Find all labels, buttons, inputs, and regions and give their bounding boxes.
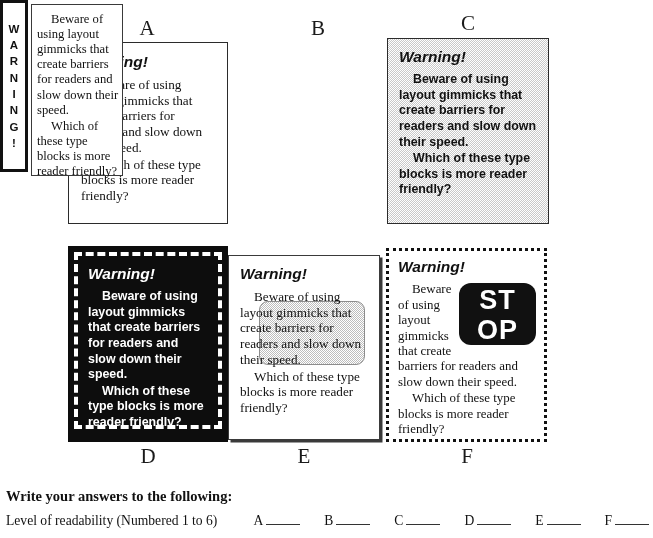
stop-line-2: OP xyxy=(459,315,536,345)
panel-b-vertical-letter: W xyxy=(9,21,20,37)
stop-sign-icon: ST OP xyxy=(459,283,536,345)
readability-question-label: Level of readability (Numbered 1 to 6) xyxy=(6,513,217,529)
panel-b-vertical-letter: A xyxy=(10,37,18,53)
answer-blank-d[interactable] xyxy=(477,513,511,525)
panel-d-paragraph-1: Beware of using layout gimmicks that cre… xyxy=(88,289,209,383)
panel-b-vertical-letter: ! xyxy=(12,135,16,151)
panel-b-vertical-warning: W A R N I N G ! xyxy=(0,0,28,172)
answer-slot-b[interactable]: B xyxy=(324,513,370,529)
answer-label-d: D xyxy=(464,513,474,529)
panel-b-vertical-letter: R xyxy=(10,53,18,69)
panel-c-paragraph-1: Beware of using layout gimmicks that cre… xyxy=(399,72,538,150)
form-title: Write your answers to the following: xyxy=(6,488,232,505)
panel-e-heading: Warning! xyxy=(240,265,371,282)
panel-label-b: B xyxy=(298,18,338,39)
panel-b-text-block: Beware of using layout gimmicks that cre… xyxy=(31,4,123,176)
panel-b-vertical-letter: N xyxy=(10,102,18,118)
panel-e-text-block: Warning! Beware of using layout gimmicks… xyxy=(240,265,371,416)
answer-slot-f[interactable]: F xyxy=(605,513,650,529)
panel-f: Warning! ST OP Beware of using layout gi… xyxy=(386,248,547,442)
panel-label-a: A xyxy=(127,18,167,39)
panel-b-vertical-letter: G xyxy=(10,119,19,135)
panel-e: Warning! Beware of using layout gimmicks… xyxy=(228,255,380,440)
panel-c-heading: Warning! xyxy=(399,48,538,65)
panel-b-paragraph-1: Beware of using layout gimmicks that cre… xyxy=(37,12,119,118)
answer-label-b: B xyxy=(324,513,333,529)
answer-label-a: A xyxy=(253,513,263,529)
panel-c: Warning! Beware of using layout gimmicks… xyxy=(387,38,549,224)
answer-slots: A B C D E F xyxy=(253,513,653,529)
panel-b-vertical-letter: N xyxy=(10,70,18,86)
panel-f-heading: Warning! xyxy=(398,258,536,275)
answer-blank-b[interactable] xyxy=(336,513,370,525)
panel-label-c: C xyxy=(448,13,488,34)
answer-label-e: E xyxy=(535,513,543,529)
stop-line-1: ST xyxy=(459,285,536,315)
panel-d-inner: Warning! Beware of using layout gimmicks… xyxy=(74,252,222,429)
answer-blank-e[interactable] xyxy=(547,513,581,525)
panel-f-paragraph-2: Which of these type blocks is more reade… xyxy=(398,391,536,437)
answer-blank-a[interactable] xyxy=(266,513,300,525)
panel-b-paragraph-2: Which of these type blocks is more reade… xyxy=(37,119,119,179)
panel-d-paragraph-2: Which of these type blocks is more reade… xyxy=(88,384,209,431)
panel-b-vertical-letter: I xyxy=(12,86,15,102)
answer-blank-c[interactable] xyxy=(406,513,440,525)
panel-c-paragraph-2: Which of these type blocks is more reade… xyxy=(399,151,538,198)
panel-label-e: E xyxy=(284,446,324,467)
panel-e-paragraph-2: Which of these type blocks is more reade… xyxy=(240,369,371,416)
answer-slot-a[interactable]: A xyxy=(253,513,300,529)
answer-blank-f[interactable] xyxy=(615,513,649,525)
answer-slot-e[interactable]: E xyxy=(535,513,580,529)
panel-d-heading: Warning! xyxy=(88,265,209,282)
panel-b: W A R N I N G ! Beware of using layout g… xyxy=(0,0,124,180)
panel-label-f: F xyxy=(447,446,487,467)
panel-e-paragraph-1: Beware of using layout gimmicks that cre… xyxy=(240,289,371,368)
answer-row: Level of readability (Numbered 1 to 6) A… xyxy=(6,513,618,529)
answer-label-c: C xyxy=(394,513,403,529)
panel-d: Warning! Beware of using layout gimmicks… xyxy=(68,246,228,442)
answer-label-f: F xyxy=(605,513,613,529)
answer-slot-d[interactable]: D xyxy=(464,513,511,529)
answer-slot-c[interactable]: C xyxy=(394,513,440,529)
panel-label-d: D xyxy=(128,446,168,467)
